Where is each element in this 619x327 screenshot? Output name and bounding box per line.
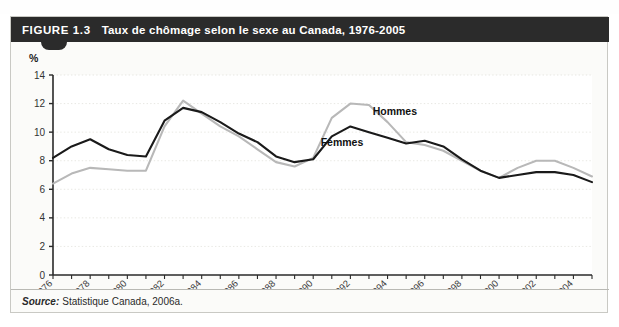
y-axis-tick-label: 12 <box>34 98 46 109</box>
y-axis-tick-label: 2 <box>39 241 45 252</box>
figure-header-bar: FIGURE 1.3 Taux de chômage selon le sexe… <box>11 17 609 42</box>
series-label-femmes: Femmes <box>321 136 364 148</box>
source-text: Statistique Canada, 2006a. <box>62 296 183 307</box>
source-label: Source: <box>22 296 59 307</box>
y-axis-tick-label: 6 <box>39 184 45 195</box>
y-axis-tick-label: 4 <box>39 212 45 223</box>
series-label-hommes: Hommes <box>373 105 418 117</box>
chart-area: % 02468101214197619781980198219841986198… <box>11 42 609 290</box>
figure-number: FIGURE 1.3 <box>22 24 91 36</box>
page-root: FIGURE 1.3 Taux de chômage selon le sexe… <box>0 0 619 327</box>
y-axis-tick-label: 10 <box>34 127 46 138</box>
line-chart-svg: 0246810121419761978198019821984198619881… <box>11 42 609 290</box>
y-axis-tick-label: 8 <box>39 155 45 166</box>
figure-title: Taux de chômage selon le sexe au Canada,… <box>102 24 406 36</box>
footer-divider <box>11 289 609 290</box>
scan-top-margin <box>0 0 619 14</box>
figure-source: Source:Statistique Canada, 2006a. <box>22 296 183 307</box>
figure-container: FIGURE 1.3 Taux de chômage selon le sexe… <box>10 16 608 313</box>
y-axis-tick-label: 14 <box>34 70 46 81</box>
